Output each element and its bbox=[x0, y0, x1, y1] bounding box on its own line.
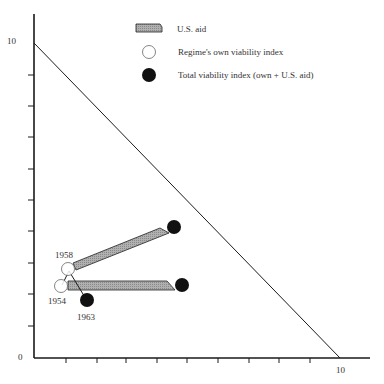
own-point-1958 bbox=[62, 263, 75, 276]
legend: U.S. aid Regime's own viability index To… bbox=[136, 24, 313, 82]
aid-bar-1954 bbox=[68, 281, 175, 290]
legend-filled-circle-icon bbox=[142, 68, 156, 82]
chart: 10 0 10 U.S. aid Regime's own viability … bbox=[0, 0, 384, 384]
aid-bar-1958 bbox=[73, 228, 169, 270]
legend-aid-swatch bbox=[136, 24, 162, 32]
year-label-1954: 1954 bbox=[48, 296, 67, 306]
legend-total-label: Total viability index (own + U.S. aid) bbox=[178, 70, 313, 80]
total-point-1958 bbox=[167, 220, 181, 234]
total-point-1954 bbox=[175, 278, 189, 292]
y-tick-label-10: 10 bbox=[7, 36, 17, 46]
legend-own-label: Regime's own viability index bbox=[178, 47, 284, 57]
legend-open-circle-icon bbox=[143, 46, 156, 59]
own-point-1954 bbox=[55, 280, 68, 293]
x-tick-label-10: 10 bbox=[336, 365, 346, 375]
reference-diagonal bbox=[34, 43, 340, 358]
legend-aid-label: U.S. aid bbox=[177, 24, 207, 34]
y-tick-label-0: 0 bbox=[18, 352, 23, 362]
year-label-1958: 1958 bbox=[55, 250, 74, 260]
year-label-1963: 1963 bbox=[77, 312, 96, 322]
y-ticks bbox=[28, 75, 34, 326]
total-point-1963 bbox=[80, 293, 94, 307]
